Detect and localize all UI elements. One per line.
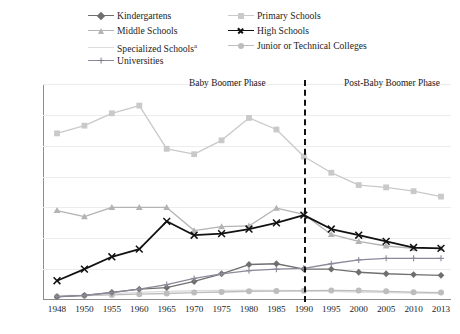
annotation-post-baby-boomer-phase: Post-Baby Boomer Phase (344, 78, 440, 88)
square-data-point (246, 115, 252, 121)
circle-data-point (273, 288, 279, 294)
series-primary-schools (54, 103, 444, 200)
x-data-point (81, 266, 88, 273)
legend-item-primary[interactable]: Primary Schools (228, 10, 321, 21)
chart-legend: KindergartensPrimary SchoolsMiddle Schoo… (0, 4, 460, 68)
plus-data-point (411, 255, 417, 261)
plus-data-point (356, 257, 362, 263)
legend-label-middle: Middle Schools (116, 25, 178, 36)
plus-data-point (246, 268, 252, 274)
square-data-point (109, 110, 115, 116)
square-data-point (383, 184, 389, 190)
circle-data-point (246, 288, 252, 294)
series-middle-schools (54, 204, 445, 251)
square-data-point (164, 146, 170, 152)
square-data-point (191, 151, 197, 157)
diamond-data-point (328, 266, 335, 273)
legend-label-junior: Junior or Technical Colleges (256, 40, 367, 51)
circle-data-point (164, 291, 170, 297)
legend-swatch-junior (228, 40, 254, 51)
plus-data-point (136, 286, 142, 292)
legend-item-middle[interactable]: Middle Schools (88, 25, 178, 36)
circle-data-point (411, 289, 417, 295)
plot-area: 02000400060008000100001200014000 1948195… (43, 84, 451, 300)
square-data-point (356, 182, 362, 188)
legend-label-primary: Primary Schools (256, 10, 321, 21)
triangle-marker-icon (98, 28, 104, 34)
diamond-data-point (438, 272, 445, 279)
circle-marker-icon (238, 43, 244, 49)
triangle-data-point (54, 207, 61, 213)
square-data-point (136, 103, 142, 109)
legend-label-high: High Schools (256, 25, 309, 36)
plus-marker-icon (98, 58, 104, 64)
x-marker-icon (238, 28, 244, 34)
square-data-point (328, 170, 334, 176)
circle-data-point (356, 288, 362, 294)
legend-item-specialized[interactable]: Specialized Schoolsa (88, 40, 197, 54)
diamond-data-point (273, 260, 280, 267)
legend-item-junior[interactable]: Junior or Technical Colleges (228, 40, 367, 51)
square-data-point (438, 194, 444, 200)
diamond-data-point (410, 271, 417, 278)
square-data-point (82, 123, 88, 129)
x-data-point (54, 277, 61, 284)
series-lines (43, 84, 451, 300)
legend-swatch-specialized (88, 42, 114, 53)
x-data-point (163, 218, 170, 225)
diamond-data-point (355, 269, 362, 276)
square-data-point (274, 127, 280, 133)
plus-data-point (219, 271, 225, 277)
circle-data-point (219, 289, 225, 295)
legend-swatch-high (228, 25, 254, 36)
legend-footnote-marker: a (194, 42, 197, 49)
square-data-point (219, 137, 225, 143)
plus-data-point (328, 261, 334, 267)
legend-swatch-kindergartens (88, 10, 114, 21)
plus-data-point (273, 266, 279, 272)
legend-item-kindergartens[interactable]: Kindergartens (88, 10, 171, 21)
legend-label-universities: Universities (116, 55, 163, 66)
triangle-data-point (273, 205, 280, 211)
circle-data-point (328, 287, 334, 293)
legend-line-icon (88, 47, 114, 48)
diamond-marker-icon (97, 11, 105, 19)
legend-item-universities[interactable]: Universities (88, 55, 163, 66)
square-data-point (411, 188, 417, 194)
annotation-baby-boomer-phase: Baby Boomer Phase (189, 78, 266, 88)
square-data-point (54, 130, 60, 136)
plus-data-point (438, 255, 444, 261)
legend-item-high[interactable]: High Schools (228, 25, 309, 36)
circle-data-point (191, 290, 197, 296)
legend-label-specialized: Specialized Schoolsa (116, 40, 197, 54)
legend-swatch-primary (228, 10, 254, 21)
legend-label-kindergartens: Kindergartens (116, 10, 171, 21)
circle-data-point (383, 288, 389, 294)
plus-data-point (383, 255, 389, 261)
diamond-data-point (246, 261, 253, 268)
phase-divider-line (304, 80, 306, 302)
square-marker-icon (238, 13, 244, 19)
legend-swatch-middle (88, 25, 114, 36)
diamond-data-point (383, 270, 390, 277)
chart-figure: KindergartensPrimary SchoolsMiddle Schoo… (0, 0, 460, 334)
x-tick-2013: 2013 (421, 304, 460, 314)
legend-swatch-universities (88, 55, 114, 66)
circle-data-point (438, 290, 444, 296)
